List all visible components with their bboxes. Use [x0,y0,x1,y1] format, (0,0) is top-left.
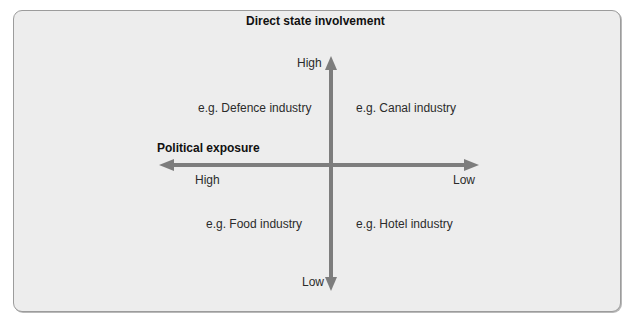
horizontal-axis-low-label: Low [453,173,475,187]
vertical-axis-high-label: High [297,56,322,70]
horizontal-axis-arrow [159,159,479,171]
quadrant-bottom-left-label: e.g. Food industry [206,217,302,231]
horizontal-axis-title: Political exposure [157,141,260,155]
vertical-axis-arrow [325,56,337,291]
quadrant-bottom-right-label: e.g. Hotel industry [356,217,453,231]
vertical-axis-low-label: Low [302,275,324,289]
horizontal-axis-high-label: High [195,173,220,187]
arrow-right-icon [464,159,479,171]
arrow-left-icon [159,159,174,171]
quadrant-top-left-label: e.g. Defence industry [198,101,311,115]
quadrant-top-right-label: e.g. Canal industry [356,101,456,115]
arrow-up-icon [325,56,337,70]
arrow-down-icon [325,277,337,291]
vertical-axis-title: Direct state involvement [246,14,385,28]
